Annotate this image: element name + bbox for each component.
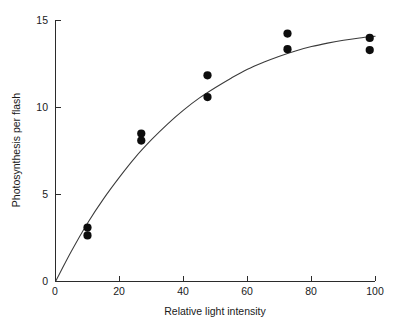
data-point [283, 45, 291, 53]
data-point [83, 223, 91, 231]
x-tick-label-20: 20 [113, 285, 125, 297]
data-point [366, 46, 374, 54]
y-tick-label-10: 10 [36, 101, 48, 113]
x-tick-label-60: 60 [241, 285, 253, 297]
y-axis-title: Photosynthesis per flash [10, 93, 22, 208]
x-tick-label-0: 0 [52, 285, 58, 297]
x-axis-ticks [56, 276, 376, 281]
scatter-plot-canvas: 0 20 40 60 80 100 0 5 10 15 Relative lig… [0, 0, 399, 329]
photosynthesis-light-response-figure: 0 20 40 60 80 100 0 5 10 15 Relative lig… [0, 0, 399, 329]
y-tick-label-0: 0 [42, 275, 48, 287]
data-point [203, 71, 211, 79]
data-points-group [83, 29, 373, 239]
x-axis-tick-labels: 0 20 40 60 80 100 [52, 285, 384, 297]
fitted-curve [56, 36, 376, 281]
x-tick-label-40: 40 [177, 285, 189, 297]
data-point [137, 136, 145, 144]
data-point [283, 29, 291, 37]
y-tick-label-5: 5 [42, 188, 48, 200]
axes-group [55, 20, 375, 282]
y-axis-tick-labels: 0 5 10 15 [36, 14, 48, 287]
x-tick-label-100: 100 [366, 285, 384, 297]
y-tick-label-15: 15 [36, 14, 48, 26]
x-tick-label-80: 80 [305, 285, 317, 297]
data-point [83, 231, 91, 239]
x-axis-title: Relative light intensity [164, 305, 266, 317]
data-point [366, 34, 374, 42]
data-point [203, 93, 211, 101]
